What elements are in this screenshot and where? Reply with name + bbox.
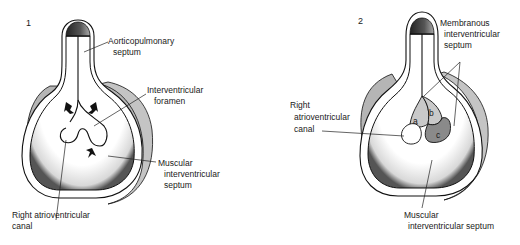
label-part-b: b: [429, 108, 434, 118]
label-right-av-canal-3: canal: [294, 124, 314, 134]
label-muscular-septum-3: septum: [164, 180, 192, 190]
ventricle-chamber: [30, 36, 134, 190]
label-muscular-septum-1: Muscular: [158, 158, 193, 168]
label-muscular-septum-2: interventricular: [164, 169, 220, 179]
label-muscular-septum-2: interventricular septum: [408, 221, 494, 231]
label-part-a: a: [413, 116, 418, 126]
label-interventricular-foramen-1: Interventricular: [147, 85, 203, 95]
diagram-canvas: 1 Aorticopulmonary septum Interventricul…: [0, 0, 520, 245]
panel-2: 2 a b c Membranous interventricular: [290, 12, 500, 231]
panel-1: 1 Aorticopulmonary septum Interventricul…: [12, 18, 220, 231]
label-right-av-canal-1: Right atrioventricular: [12, 210, 90, 220]
label-right-av-canal-2: atrioventricular: [294, 112, 350, 122]
label-interventricular-foramen-2: foramen: [154, 96, 185, 106]
label-membranous-septum-1: Membranous: [440, 18, 490, 28]
label-right-av-canal-2: canal: [12, 221, 32, 231]
panel-1-number: 1: [26, 18, 31, 28]
label-membranous-septum-2: interventricular: [444, 29, 500, 39]
label-right-av-canal-1: Right: [290, 100, 310, 110]
label-membranous-septum-3: septum: [444, 40, 472, 50]
label-aorticopulmonary-septum-1: Aorticopulmonary: [108, 36, 175, 46]
panel-2-number: 2: [358, 16, 363, 26]
label-aorticopulmonary-septum-2: septum: [113, 47, 141, 57]
label-muscular-septum-1: Muscular: [404, 210, 439, 220]
